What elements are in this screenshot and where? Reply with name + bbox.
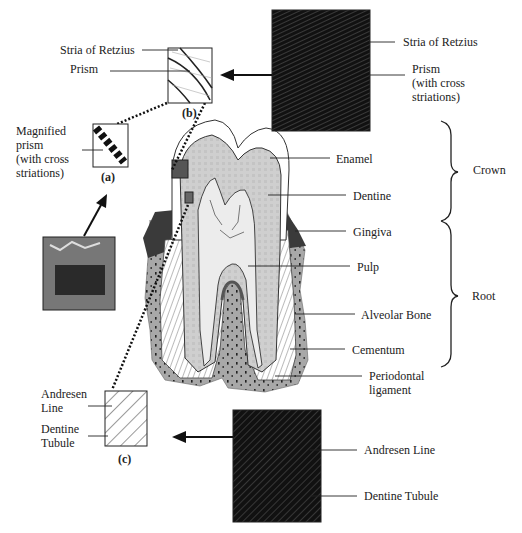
label-prism-schematic: Prism [70, 62, 98, 76]
caption-b: (b) [182, 106, 197, 121]
dentine-sample-box [185, 192, 193, 203]
label-enamel: Enamel [336, 152, 373, 166]
caption-c: (c) [118, 452, 131, 467]
label-periodontal: Periodontal [369, 369, 424, 383]
label-with-cross: (with cross [16, 152, 69, 166]
label-prism-micro: Prism [412, 62, 440, 76]
inset-b-schematic [168, 48, 212, 103]
label-ligament: ligament [369, 383, 411, 397]
label-dentine: Dentine [353, 189, 391, 203]
crown-brace [441, 121, 458, 221]
label-cementum: Cementum [352, 343, 405, 357]
label-magnified: Magnified [16, 124, 66, 138]
label-prism-micro-2: (with cross [412, 76, 465, 90]
label-pulp: Pulp [357, 260, 379, 274]
label-dentine-tubule-micro: Dentine Tubule [364, 489, 438, 503]
label-dentine-c: Dentine [41, 422, 79, 436]
label-tubule: Tubule [41, 436, 75, 450]
label-andresen-line-micro: Andresen Line [364, 443, 435, 457]
label-striations: striations) [16, 166, 64, 180]
label-prism-micro-3: striations) [412, 90, 460, 104]
label-stria-of-retzius-schematic: Stria of Retzius [60, 43, 135, 57]
inset-a-schematic [93, 124, 128, 167]
label-stria-of-retzius-micro: Stria of Retzius [403, 35, 478, 49]
label-alveolar-bone: Alveolar Bone [361, 308, 431, 322]
label-gingiva: Gingiva [353, 225, 392, 239]
inset-c-schematic [105, 391, 147, 446]
caption-a: (a) [101, 170, 115, 185]
micrograph-b [272, 10, 370, 131]
enamel-sample-box [172, 160, 188, 178]
root-brace [441, 221, 458, 367]
label-line: Line [41, 401, 63, 415]
label-prism-a: prism [16, 138, 43, 152]
label-crown: Crown [473, 163, 506, 177]
label-andresen: Andresen [41, 387, 87, 401]
micrograph-c [233, 410, 321, 522]
label-root: Root [472, 289, 495, 303]
